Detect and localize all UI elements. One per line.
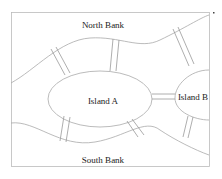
island-a-label: Island A — [88, 96, 118, 106]
river-south-edge — [11, 123, 209, 155]
south-bank-label: South Bank — [82, 155, 124, 165]
north-bank-label: North Bank — [82, 20, 124, 30]
island-b-label: Island B — [178, 92, 208, 102]
